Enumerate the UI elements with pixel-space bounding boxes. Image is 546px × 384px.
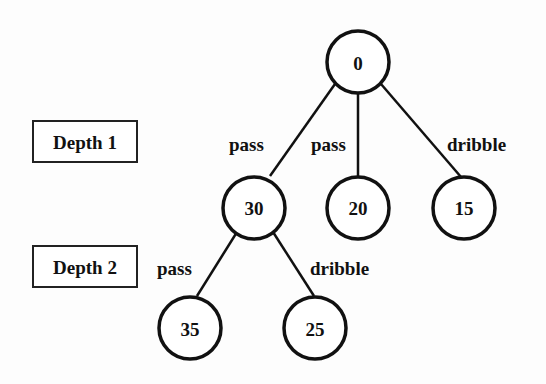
edge-label-n30-n35: pass — [157, 258, 192, 279]
node-value-n35: 35 — [181, 319, 200, 340]
tree-diagram: pass pass dribble pass dribble Depth 1 D… — [0, 0, 546, 384]
depth-text-2: Depth 2 — [53, 257, 117, 278]
depth-text-1: Depth 1 — [53, 132, 117, 153]
tree-node-n30: 30 — [223, 177, 285, 239]
tree-node-n15: 15 — [433, 177, 495, 239]
tree-node-n20: 20 — [327, 177, 389, 239]
node-value-n20: 20 — [349, 198, 368, 219]
depth-label-2: Depth 2 — [33, 246, 137, 287]
node-value-n15: 15 — [455, 198, 474, 219]
depth-label-1: Depth 1 — [33, 121, 137, 162]
tree-node-n25: 25 — [284, 297, 346, 359]
edge-label-root-n20: pass — [311, 134, 346, 155]
edge-label-root-n30: pass — [229, 134, 264, 155]
node-value-n30: 30 — [245, 198, 264, 219]
edge-n30-n35 — [197, 232, 237, 296]
edge-label-n30-n25: dribble — [310, 258, 369, 279]
node-value-root: 0 — [353, 53, 363, 74]
edge-root-n30 — [270, 84, 335, 176]
edge-root-n15 — [381, 84, 461, 177]
edge-n30-n25 — [273, 232, 314, 296]
node-value-n25: 25 — [306, 319, 325, 340]
tree-node-root: 0 — [327, 31, 389, 93]
tree-node-n35: 35 — [159, 297, 221, 359]
edge-label-root-n15: dribble — [447, 134, 506, 155]
